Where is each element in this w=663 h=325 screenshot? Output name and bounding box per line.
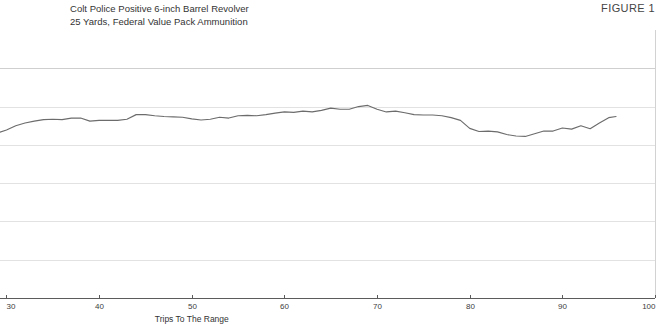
plot-area: 30405060708090100 Trips To The Range: [0, 0, 663, 325]
x-tick-label-80: 80: [466, 302, 475, 311]
data-series-line: [0, 105, 616, 136]
x-tick-label-40: 40: [95, 302, 104, 311]
x-tick-label-60: 60: [280, 302, 289, 311]
x-tick-label-90: 90: [558, 302, 567, 311]
line-chart-svg: 30405060708090100 Trips To The Range: [0, 0, 663, 325]
gridlines-group: [0, 69, 655, 261]
x-tick-label-30: 30: [7, 302, 16, 311]
x-tick-label-50: 50: [188, 302, 197, 311]
figure-root: Colt Police Positive 6-inch Barrel Revol…: [0, 0, 663, 325]
x-axis-ticks-group: 30405060708090100: [7, 295, 657, 311]
x-tick-label-100: 100: [642, 302, 656, 311]
x-axis-title: Trips To The Range: [155, 314, 229, 324]
x-tick-label-70: 70: [373, 302, 382, 311]
